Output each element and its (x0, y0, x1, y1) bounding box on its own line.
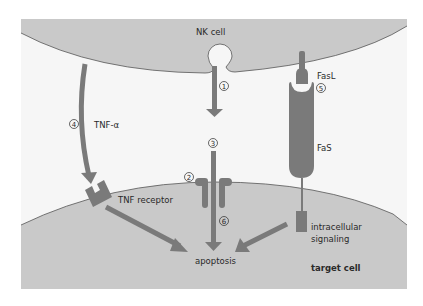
svg-text:3: 3 (211, 140, 215, 148)
fas-label: FaS (317, 143, 332, 153)
svg-text:1: 1 (222, 83, 226, 91)
apoptosis-label: apoptosis (195, 256, 237, 266)
svg-text:6: 6 (222, 218, 227, 226)
svg-text:2: 2 (187, 174, 191, 182)
svg-text:4: 4 (72, 121, 77, 129)
intracellular-signaling-label-line2: signaling (311, 234, 349, 244)
tnf-alpha-label: TNF-α (93, 120, 120, 130)
svg-text:5: 5 (319, 85, 323, 93)
target-cell-label: target cell (311, 263, 361, 273)
intracellular-signaling-label-line1: intracellular (311, 222, 362, 232)
tnf-receptor-label: TNF receptor (117, 195, 174, 205)
fasl-label: FasL (317, 71, 336, 81)
nk-cell-label: NK cell (196, 27, 225, 37)
nk-cell-killing-diagram: NK cell TNF-α TNF receptor FasL FaS intr… (0, 0, 423, 306)
